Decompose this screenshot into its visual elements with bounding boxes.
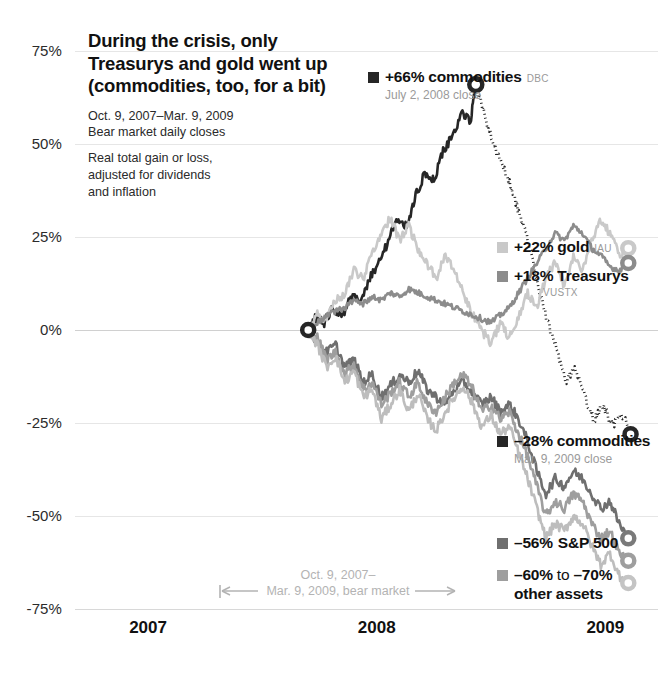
chart-canvas: 75%50%25%0%-25%-50%-75% 200720082009 Dur…	[0, 0, 668, 674]
bear-market-arrows	[0, 0, 668, 674]
